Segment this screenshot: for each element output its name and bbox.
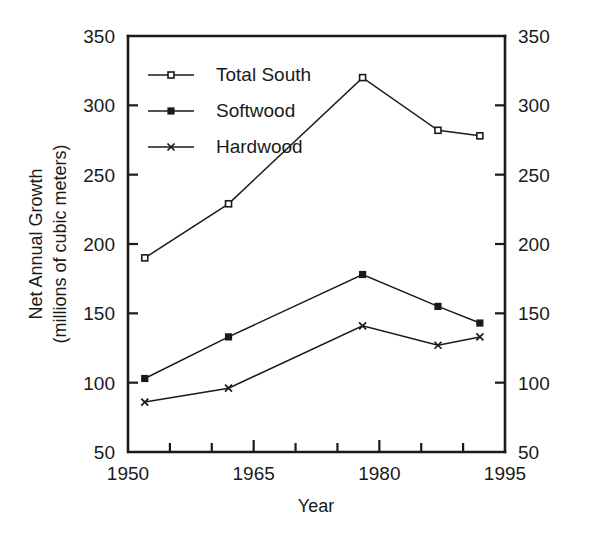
chart-figure: 50100150200250300350 5010015020025030035… [0, 0, 595, 538]
y-tick-label-left: 50 [94, 442, 115, 463]
y-tick-label-left: 350 [83, 26, 115, 47]
x-tick-label: 1980 [358, 463, 400, 484]
marker-filled-square [226, 334, 232, 340]
y-tick-label-right: 100 [518, 373, 550, 394]
y-axis-title-line2: (millions of cubic meters) [50, 144, 70, 343]
y-tick-label-right: 150 [518, 303, 550, 324]
marker-filled-square [435, 303, 441, 309]
series-total-south [142, 75, 483, 261]
series-polyline [145, 78, 480, 258]
x-axis-labels: 1950196519801995 [107, 463, 526, 484]
plot-frame [128, 36, 505, 452]
series-softwood [142, 272, 483, 382]
y-tick-label-right: 250 [518, 165, 550, 186]
x-axis-ticks [170, 440, 463, 452]
y-tick-label-right: 300 [518, 95, 550, 116]
marker-filled-square [142, 376, 148, 382]
x-tick-label: 1965 [233, 463, 275, 484]
x-axis-title: Year [298, 496, 334, 516]
legend-item-hardwood[interactable]: Hardwood [148, 136, 303, 157]
legend-label: Softwood [216, 100, 295, 121]
y-axis-left-ticks [128, 105, 138, 382]
y-tick-label-left: 150 [83, 303, 115, 324]
data-series-layer [141, 75, 483, 406]
marker-open-square [360, 75, 366, 81]
y-tick-label-right: 50 [518, 442, 539, 463]
chart-legend: Total SouthSoftwoodHardwood [148, 64, 311, 157]
line-chart: 50100150200250300350 5010015020025030035… [0, 0, 595, 538]
x-tick-label: 1995 [484, 463, 526, 484]
left-bottom-axis [128, 36, 505, 452]
series-polyline [145, 275, 480, 379]
y-tick-label-left: 100 [83, 373, 115, 394]
series-polyline [145, 326, 480, 402]
y-axis-right-labels: 50100150200250300350 [518, 26, 550, 463]
legend-label: Total South [216, 64, 311, 85]
y-axis-right-ticks [495, 105, 505, 382]
marker-open-square [477, 133, 483, 139]
marker-filled-square [360, 272, 366, 278]
marker-open-square [168, 72, 174, 78]
legend-label: Hardwood [216, 136, 303, 157]
y-axis-title-line1: Net Annual Growth [26, 168, 46, 319]
y-tick-label-left: 250 [83, 165, 115, 186]
marker-open-square [142, 255, 148, 261]
y-tick-label-left: 200 [83, 234, 115, 255]
y-tick-label-left: 300 [83, 95, 115, 116]
y-tick-label-right: 350 [518, 26, 550, 47]
marker-filled-square [168, 108, 174, 114]
legend-item-total-south[interactable]: Total South [148, 64, 311, 85]
y-tick-label-right: 200 [518, 234, 550, 255]
legend-item-softwood[interactable]: Softwood [148, 100, 295, 121]
marker-open-square [435, 127, 441, 133]
x-tick-label: 1950 [107, 463, 149, 484]
marker-filled-square [477, 320, 483, 326]
y-axis-left-labels: 50100150200250300350 [83, 26, 115, 463]
series-hardwood [141, 322, 483, 405]
marker-open-square [226, 201, 232, 207]
